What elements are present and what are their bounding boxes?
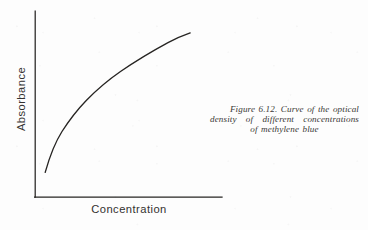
figure-caption: Figure 6.12. Curve of the optical densit… [210,105,359,135]
figure-caption-line-3: of methylene blue [210,125,359,135]
y-axis-label: Absorbance [16,33,27,165]
figure-6-12: Absorbance Concentration Figure 6.12. Cu… [0,0,368,230]
absorbance-curve [45,33,190,173]
x-axis-label: Concentration [35,204,223,215]
